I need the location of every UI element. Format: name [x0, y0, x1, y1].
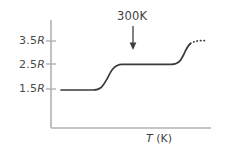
x-axis-unit: (K) [153, 132, 172, 145]
x-axis-symbol: T [146, 132, 153, 145]
curve-dotted-segment [191, 41, 208, 44]
plot-canvas [0, 0, 225, 157]
y-tick-value-1_5: 1.5 [19, 82, 37, 95]
curve-solid-segment [61, 44, 191, 91]
y-axis-tick-label-1_5R: 1.5R [5, 82, 45, 95]
y-tick-unit-1_5: R [37, 82, 45, 95]
y-tick-value-2_5: 2.5 [19, 58, 37, 71]
annotation-arrow-head [130, 43, 137, 51]
x-axis-title: T (K) [146, 132, 172, 145]
y-tick-value-3_5: 3.5 [19, 34, 37, 47]
y-axis-tick-label-2_5R: 2.5R [5, 58, 45, 71]
y-axis-tick-label-3_5R: 3.5R [5, 34, 45, 47]
annotation-label-300k: 300K [117, 9, 147, 23]
y-tick-unit-3_5: R [37, 34, 45, 47]
y-tick-unit-2_5: R [37, 58, 45, 71]
heat-capacity-figure: 3.5R 2.5R 1.5R T (K) 300K [0, 0, 225, 157]
